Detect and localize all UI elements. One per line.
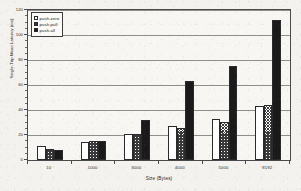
x-tick-mark: [158, 161, 159, 164]
x-tick-mark: [114, 161, 115, 164]
bar: [141, 120, 150, 160]
x-tick-mark: [289, 161, 290, 164]
legend: push-zeropush-pullpush-all: [31, 12, 63, 37]
x-tick-label: 8192: [262, 165, 272, 170]
bar: [46, 149, 55, 160]
x-tick-label: 10: [46, 165, 51, 170]
y-tick-label: 80: [18, 57, 23, 62]
x-tick-mark: [27, 161, 28, 164]
legend-item: push-all: [34, 27, 59, 33]
plot-area: [27, 9, 291, 161]
bar: [264, 105, 273, 160]
bar: [272, 20, 281, 160]
x-tick-label: 3000: [131, 165, 141, 170]
bar-group: [115, 10, 159, 160]
y-tick-label: 100: [16, 32, 23, 37]
y-axis-title: Single-Trip Mean Latency (ms): [9, 0, 14, 104]
y-tick-label: 120: [16, 7, 23, 12]
bar: [37, 146, 46, 160]
legend-swatch-icon: [34, 16, 38, 20]
bar: [220, 122, 229, 161]
x-tick-label: 4000: [175, 165, 185, 170]
bar: [255, 106, 264, 160]
bar: [133, 134, 142, 160]
bar-group: [246, 10, 290, 160]
bar: [98, 141, 107, 160]
bar-group: [72, 10, 116, 160]
bar: [124, 134, 133, 160]
x-tick-mark: [71, 161, 72, 164]
x-axis-tick-labels: 1010003000400050008192: [27, 165, 291, 175]
bar: [177, 128, 186, 160]
y-tick-label: 0: [21, 157, 23, 162]
x-tick-label: 1000: [88, 165, 98, 170]
chart-figure: 020406080100120 Single-Trip Mean Latency…: [0, 0, 301, 191]
bar-group: [159, 10, 203, 160]
x-tick-mark: [202, 161, 203, 164]
bar: [168, 126, 177, 160]
bar: [212, 119, 221, 160]
bar: [54, 150, 63, 160]
x-tick-mark: [245, 161, 246, 164]
bar: [81, 142, 90, 160]
bar-group: [203, 10, 247, 160]
legend-item-label: push-zero: [40, 16, 60, 21]
x-tick-label: 5000: [219, 165, 229, 170]
legend-swatch-icon: [34, 28, 38, 32]
bar: [185, 81, 194, 160]
y-tick-label: 60: [18, 82, 23, 87]
bar: [89, 141, 98, 160]
x-axis-title: Size (Bytes): [27, 176, 291, 181]
bar: [229, 66, 238, 160]
y-axis: 020406080100120: [0, 0, 27, 170]
legend-item-label: push-pull: [40, 22, 58, 27]
legend-swatch-icon: [34, 22, 38, 26]
y-tick-label: 40: [18, 107, 23, 112]
legend-item-label: push-all: [40, 28, 55, 33]
y-tick-label: 20: [18, 132, 23, 137]
